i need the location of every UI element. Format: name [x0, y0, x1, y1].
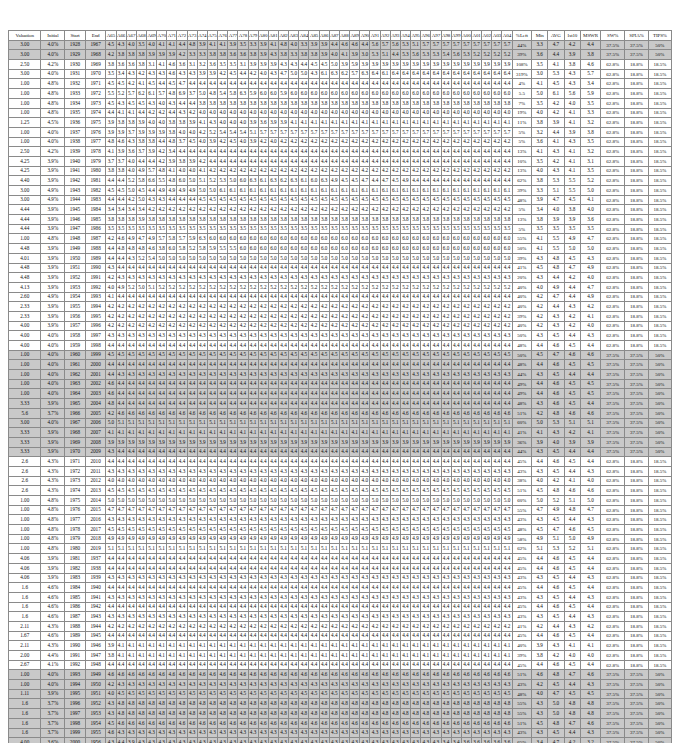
cell-a77[interactable]: 4.4: [228, 360, 238, 370]
cell-a66[interactable]: 4.3: [116, 98, 126, 108]
cell-a82[interactable]: 4.4: [279, 292, 289, 302]
table-row[interactable]: 1.004.8%193219714.54.54.24.14.54.44.54.7…: [9, 79, 672, 89]
cell-min[interactable]: 4.5: [532, 350, 548, 360]
cell-a81[interactable]: 4.4: [268, 583, 278, 593]
cell-a70[interactable]: 4.3: [157, 680, 167, 690]
cell-a94[interactable]: 4.5: [400, 195, 410, 205]
cell-a86[interactable]: 4.5: [319, 60, 329, 70]
cell-min[interactable]: 4.2: [532, 321, 548, 331]
cell-a84[interactable]: 4.3: [299, 728, 309, 738]
cell-pctleft[interactable]: 45%: [512, 583, 531, 593]
cell-1st10[interactable]: 4.9: [564, 234, 580, 244]
cell-a90[interactable]: 5.1: [360, 544, 370, 554]
cell-a92[interactable]: 4.3: [380, 331, 390, 341]
cell-min[interactable]: 4.1: [532, 428, 548, 438]
cell-a97[interactable]: 4.4: [431, 602, 441, 612]
cell-a92[interactable]: 5.1: [380, 50, 390, 60]
cell-a97[interactable]: 4.4: [431, 457, 441, 467]
cell-min[interactable]: 4.1: [532, 244, 548, 254]
cell-a01[interactable]: 4.4: [471, 156, 481, 166]
cell-a86[interactable]: 6.0: [319, 244, 329, 254]
cell-a02[interactable]: 4.2: [482, 137, 492, 147]
cell-a80[interactable]: 4.2: [258, 205, 268, 215]
cell-a74[interactable]: 4.4: [197, 341, 207, 351]
cell-valuation[interactable]: 1.25: [9, 118, 41, 128]
cell-a71[interactable]: 4.4: [167, 563, 177, 573]
cell-mswr[interactable]: 4.4: [580, 554, 601, 564]
cell-a78[interactable]: 4.2: [238, 321, 248, 331]
cell-min[interactable]: 4.3: [532, 447, 548, 457]
cell-a70[interactable]: 4.4: [157, 379, 167, 389]
cell-end[interactable]: 2015: [85, 505, 106, 515]
cell-a01[interactable]: 6.0: [471, 234, 481, 244]
cell-a74[interactable]: 4.6: [197, 408, 207, 418]
cell-a83[interactable]: 4.0: [289, 40, 299, 50]
cell-swpct[interactable]: 62.8%: [601, 554, 625, 564]
cell-a80[interactable]: 4.0: [258, 476, 268, 486]
cell-a81[interactable]: 4.4: [268, 156, 278, 166]
cell-a75[interactable]: 4.3: [207, 612, 217, 622]
cell-a84[interactable]: 4.4: [299, 631, 309, 641]
cell-a94[interactable]: 3.8: [400, 215, 410, 225]
cell-a94[interactable]: 4.1: [400, 118, 410, 128]
cell-a68[interactable]: 4.5: [136, 689, 146, 699]
cell-a85[interactable]: 6.0: [309, 244, 319, 254]
cell-a86[interactable]: 3.8: [319, 98, 329, 108]
cell-a91[interactable]: 4.4: [370, 147, 380, 157]
cell-a83[interactable]: 5.1: [289, 544, 299, 554]
cell-pctleft[interactable]: 43%: [512, 515, 531, 525]
cell-min[interactable]: 3.2: [532, 127, 548, 137]
cell-initial[interactable]: 4.8%: [41, 534, 65, 544]
cell-pctleft[interactable]: 43%: [512, 612, 531, 622]
cell-a77[interactable]: 4.8: [228, 699, 238, 709]
cell-mswr[interactable]: 5.0: [580, 496, 601, 506]
cell-a75[interactable]: 4.0: [207, 108, 217, 118]
cell-a02[interactable]: 3.6: [482, 738, 492, 743]
cell-a04[interactable]: 5.0: [502, 496, 512, 506]
cell-a76[interactable]: 4.5: [218, 350, 228, 360]
cell-a77[interactable]: 5.0: [228, 253, 238, 263]
cell-a85[interactable]: 4.3: [309, 592, 319, 602]
cell-initial[interactable]: 4.8%: [41, 505, 65, 515]
cell-a92[interactable]: 4.7: [380, 176, 390, 186]
cell-tipspct[interactable]: 18.5%: [648, 331, 671, 341]
cell-a90[interactable]: 4.3: [360, 680, 370, 690]
cell-a66[interactable]: 3.6: [116, 60, 126, 70]
cell-a76[interactable]: 4.4: [218, 79, 228, 89]
cell-a02[interactable]: 4.4: [482, 341, 492, 351]
cell-a00[interactable]: 4.5: [461, 689, 471, 699]
cell-tipspct[interactable]: 50%: [648, 379, 671, 389]
cell-swpct[interactable]: 62.8%: [601, 60, 625, 70]
cell-a79[interactable]: 4.3: [248, 466, 258, 476]
cell-a88[interactable]: 6.0: [339, 89, 349, 99]
cell-a83[interactable]: 4.3: [289, 60, 299, 70]
cell-a72[interactable]: 4.4: [177, 341, 187, 351]
cell-a70[interactable]: 4.4: [157, 602, 167, 612]
cell-a94[interactable]: 4.4: [400, 563, 410, 573]
cell-min[interactable]: 4.5: [532, 263, 548, 273]
cell-a66[interactable]: 4.4: [116, 447, 126, 457]
cell-initial[interactable]: 4.6%: [41, 602, 65, 612]
cell-a79[interactable]: 4.2: [248, 302, 258, 312]
cell-a86[interactable]: 4.4: [319, 583, 329, 593]
cell-a83[interactable]: 4.6: [289, 408, 299, 418]
cell-a78[interactable]: 4.3: [238, 466, 248, 476]
cell-a86[interactable]: 4.4: [319, 457, 329, 467]
cell-a66[interactable]: 4.4: [116, 583, 126, 593]
cell-a97[interactable]: 4.6: [431, 670, 441, 680]
cell-a89[interactable]: 4.8: [350, 709, 360, 719]
cell-a71[interactable]: 4.4: [167, 447, 177, 457]
column-header-a96[interactable]: A96: [421, 31, 431, 41]
cell-a95[interactable]: 4.4: [411, 379, 421, 389]
cell-a81[interactable]: 4.4: [268, 360, 278, 370]
cell-a89[interactable]: 4.6: [350, 670, 360, 680]
cell-a83[interactable]: 4.4: [289, 292, 299, 302]
cell-a91[interactable]: 4.4: [370, 457, 380, 467]
cell-a03[interactable]: 4.2: [492, 311, 502, 321]
cell-a78[interactable]: 3.8: [238, 98, 248, 108]
cell-initial[interactable]: 4.0%: [41, 331, 65, 341]
cell-a68[interactable]: 4.7: [136, 505, 146, 515]
cell-a99[interactable]: 4.4: [451, 292, 461, 302]
cell-a92[interactable]: 4.2: [380, 137, 390, 147]
cell-a86[interactable]: 4.2: [319, 311, 329, 321]
